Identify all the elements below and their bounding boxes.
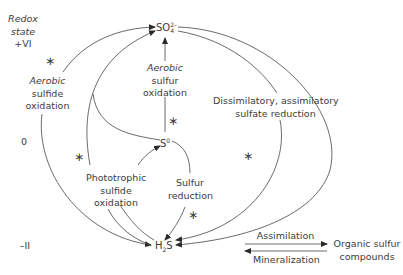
label-sulfate-reduction: Dissimilatory, assimilatory sulfate redu…	[213, 95, 338, 120]
line: Aerobic	[140, 62, 190, 75]
sulfur-cycle-arrows	[0, 0, 403, 275]
star-marker-icon: ∗	[188, 209, 198, 221]
axis-title-line2: state	[8, 26, 38, 39]
star-marker-icon: ∗	[243, 150, 253, 162]
organic-line1: Organic sulfur	[333, 238, 401, 251]
line: sulfate reduction	[213, 108, 338, 121]
line: oxidation	[140, 87, 190, 100]
label-aerobic-sulfur-oxidation: Aerobic sulfur oxidation	[140, 62, 190, 100]
axis-level-minus2: –II	[17, 240, 33, 251]
line: Dissimilatory, assimilatory	[213, 95, 338, 108]
sulfate-base: SO	[156, 22, 170, 33]
organic-line2: compounds	[333, 251, 401, 264]
organic-sulfur-node: Organic sulfur compounds	[333, 238, 401, 263]
star-marker-icon: ∗	[74, 151, 84, 163]
label-aerobic-sulfide-oxidation: Aerobic sulfide oxidation	[20, 75, 75, 113]
line: oxidation	[86, 197, 146, 210]
star-marker-icon: ∗	[168, 115, 178, 127]
line: sulfur	[140, 75, 190, 88]
line: sulfide	[86, 185, 146, 198]
sulfate-subscript: 4	[170, 28, 177, 34]
sulfate-node: SO2–4	[156, 22, 177, 34]
line: Phototrophic	[86, 172, 146, 185]
line: reduction	[168, 190, 212, 203]
axis-level-zero: 0	[19, 136, 29, 147]
label-assimilation: Assimilation	[253, 230, 318, 243]
label-mineralization: Mineralization	[253, 254, 318, 267]
sulfur-oxidation-state: 0	[166, 137, 170, 144]
line: oxidation	[20, 100, 75, 113]
sulfide-base: H	[155, 240, 163, 251]
label-sulfur-reduction: Sulfur reduction	[168, 177, 212, 202]
line: Sulfur	[168, 177, 212, 190]
axis-title: Redox state	[8, 13, 38, 38]
sulfur-node: S0	[160, 137, 170, 149]
star-marker-icon: ∗	[45, 55, 55, 67]
label-phototrophic-sulfide-oxidation: Phototrophic sulfide oxidation	[86, 172, 146, 210]
axis-title-line1: Redox	[8, 13, 38, 26]
sulfide-node: H2S	[155, 240, 173, 253]
axis-level-plus6: +VI	[12, 38, 34, 49]
line: Aerobic	[20, 75, 75, 88]
sulfide-tail: S	[166, 240, 172, 251]
line: sulfide	[20, 88, 75, 101]
